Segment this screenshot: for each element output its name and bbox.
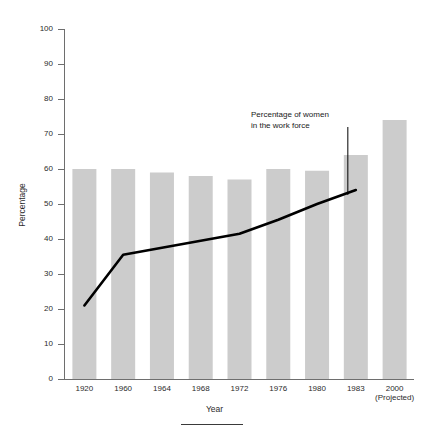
y-tick-20 xyxy=(58,309,65,310)
bar-1960 xyxy=(111,169,135,379)
bar-1976 xyxy=(266,169,290,379)
y-tick-100 xyxy=(58,29,65,30)
y-tick-50 xyxy=(58,204,65,205)
y-axis-title: Percentage xyxy=(17,160,27,250)
chart-figure: 1009080706050403020100 Percentage 192019… xyxy=(0,0,429,432)
y-tick-90 xyxy=(58,64,65,65)
bar-1920 xyxy=(72,169,96,379)
plot-area xyxy=(65,29,414,379)
y-tick-label-90: 90 xyxy=(0,60,53,68)
y-tick-label-10: 10 xyxy=(0,340,53,348)
x-axis-title: Year xyxy=(0,404,429,414)
y-tick-label-30: 30 xyxy=(0,270,53,278)
y-tick-10 xyxy=(58,344,65,345)
annotation-line-2: in the work force xyxy=(251,121,310,131)
bar-1964 xyxy=(150,173,174,380)
x-tick-label-2000: 2000(Projected) xyxy=(365,384,425,402)
title-remnant xyxy=(70,0,370,4)
y-tick-label-100: 100 xyxy=(0,25,53,33)
y-tick-30 xyxy=(58,274,65,275)
y-tick-70 xyxy=(58,134,65,135)
bottom-rule xyxy=(181,424,243,425)
bar-1972 xyxy=(228,180,252,380)
bar-1968 xyxy=(189,176,213,379)
y-tick-80 xyxy=(58,99,65,100)
bar-2000 xyxy=(383,120,407,379)
y-tick-label-70: 70 xyxy=(0,130,53,138)
y-tick-40 xyxy=(58,239,65,240)
y-tick-label-80: 80 xyxy=(0,95,53,103)
y-tick-60 xyxy=(58,169,65,170)
x-axis-line xyxy=(64,379,414,380)
plot-canvas xyxy=(65,29,414,379)
annotation-line-1: Percentage of women xyxy=(251,110,329,120)
y-tick-label-20: 20 xyxy=(0,305,53,313)
x-tick-sublabel-2000: (Projected) xyxy=(365,393,425,402)
y-tick-label-0: 0 xyxy=(0,375,53,383)
